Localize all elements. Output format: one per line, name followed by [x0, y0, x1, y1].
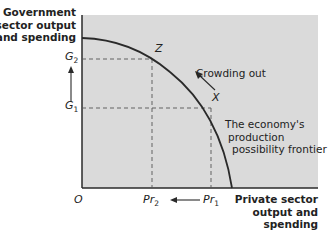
x-axis-title-line-1: Private sector [235, 193, 318, 206]
x-axis-title: Private sector output and spending [235, 193, 318, 231]
x-axis-title-line-3: spending [235, 218, 318, 231]
frontier-label-line-2: production [225, 131, 327, 144]
point-x-label: X [212, 91, 220, 104]
crowding-out-label: Crowding out [196, 67, 266, 80]
y-tick-g1: G1 [65, 99, 78, 114]
ppf-crowding-out-diagram: Government sector output and spending G2… [0, 0, 330, 239]
left-arrowhead-icon [170, 197, 177, 203]
y-axis-title: Government sector output and spending [0, 6, 76, 44]
x-tick-pr2: Pr2 [143, 193, 159, 208]
plot-area [82, 15, 318, 188]
up-arrowhead-icon [68, 66, 74, 73]
y-axis-title-line-2: sector output [0, 19, 76, 32]
x-axis-title-line-2: output and [235, 206, 318, 219]
y-axis-title-line-3: and spending [0, 31, 76, 44]
y-axis-title-line-1: Government [0, 6, 76, 19]
origin-label: O [74, 193, 83, 206]
frontier-label: The economy's production possibility fro… [225, 118, 327, 156]
frontier-label-line-1: The economy's [225, 118, 327, 131]
y-tick-g2: G2 [65, 50, 78, 65]
frontier-label-line-3: possibility frontier [225, 143, 327, 156]
point-z-label: Z [155, 42, 163, 55]
x-tick-pr1: Pr1 [203, 193, 219, 208]
